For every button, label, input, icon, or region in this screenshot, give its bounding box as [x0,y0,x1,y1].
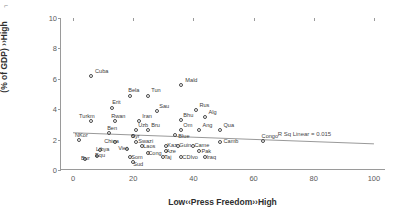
x-tick-mark [133,18,134,21]
y-tick-label: 8 [53,44,57,53]
data-point-label: Bela [128,87,139,93]
data-point-label: Blue [178,133,189,139]
data-point-label: Mald [185,77,197,83]
data-point-label: NKor [75,132,88,138]
data-point-label: Sau [159,103,169,109]
x-tick-mark [193,18,194,21]
data-point [77,138,81,142]
data-point-label: Bur [81,155,90,161]
data-point [173,133,177,137]
data-point-label: Cong [148,150,161,156]
data-point [218,140,222,144]
data-point-label: Viet [118,145,128,151]
data-point-label: Alg [208,109,216,115]
data-point-label: Ben [107,125,117,131]
scatter-chart: ⌐ Low ‹‹Public health expenditure (% of … [0,0,409,221]
x-axis-title: Low‹‹Press Freedom››High [60,197,385,207]
x-tick-label: 100 [368,174,381,183]
data-point [261,139,265,143]
data-point-label: Bhu [183,112,193,118]
data-point-label: Camb [223,138,238,144]
x-tick-mark [254,18,255,21]
x-tick-label: 20 [129,174,137,183]
data-point-label: Laos [143,143,155,149]
x-tick-mark [73,18,74,21]
y-tick-mark [58,140,61,141]
data-point-label: Congo [262,133,278,139]
data-point [107,131,111,135]
x-tick-label: 60 [249,174,257,183]
x-tick-label: 0 [71,174,75,183]
data-point-label: Equ [95,152,105,158]
data-point-label: Bru [151,122,160,128]
data-point-label: CDIvo [182,154,198,160]
data-point-label: Guin [179,142,191,148]
y-tick-mark [58,18,61,19]
rsq-annotation: R Sq Linear = 0.015 [278,131,332,137]
data-point-label: China [104,138,119,144]
data-point-label: Iraq [206,154,216,160]
data-point [155,109,159,113]
data-point-label: Qua [223,122,234,128]
y-tick-label: 0 [53,166,57,175]
data-point [218,128,222,132]
y-tick-label: 6 [53,74,57,83]
data-point [197,128,201,132]
data-point-label: Erit [112,99,120,105]
data-point [89,119,93,123]
data-point [128,94,132,98]
data-point [113,119,117,123]
data-point-label: Taj [164,154,171,160]
y-tick-mark [58,109,61,110]
data-point-label: Sud [133,161,143,167]
trendline [61,18,385,169]
data-point-label: Som [131,154,143,160]
data-point-label: Om [183,122,192,128]
plot-area: CubaMaldBelaTunEritRusSauTurkmRwanIranBh… [60,18,385,170]
y-tick-mark [58,48,61,49]
data-point-label: Tun [151,87,160,93]
data-point [110,106,114,110]
data-point-label: Ang [202,122,212,128]
data-point-label: Iran [142,113,152,119]
data-point [89,74,93,78]
data-point-label: Rus [199,102,209,108]
data-point [146,94,150,98]
y-tick-label: 4 [53,105,57,114]
data-point-label: Turkm [79,113,95,119]
y-tick-label: 10 [49,14,57,23]
y-tick-mark [58,170,61,171]
data-point-label: Rwan [111,113,125,119]
data-point [203,115,207,119]
data-point [194,108,198,112]
x-tick-mark [314,18,315,21]
data-point [179,128,183,132]
data-point-label: Cuba [95,68,108,74]
data-point [146,128,150,132]
data-point [179,83,183,87]
y-tick-label: 2 [53,135,57,144]
x-tick-mark [374,18,375,21]
x-tick-label: 80 [310,174,318,183]
y-axis-title: Low ‹‹Public health expenditure (% of GD… [0,0,10,182]
y-tick-mark [58,79,61,80]
x-tick-label: 40 [189,174,197,183]
